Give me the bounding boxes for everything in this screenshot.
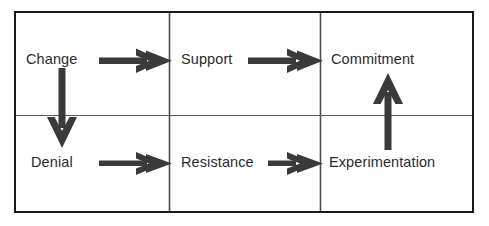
cell-label-support: Support: [181, 52, 233, 67]
cell-label-commitment: Commitment: [331, 52, 414, 67]
cell-label-denial: Denial: [31, 155, 73, 170]
diagram-canvas: Change Support Commitment Denial Resista…: [0, 0, 489, 226]
grid-outer-border: [15, 12, 473, 212]
grid-lines: [14, 11, 474, 213]
arrow-change-to-support: [99, 49, 172, 73]
arrow-change-to-denial: [47, 68, 77, 148]
arrow-support-to-commitment: [248, 49, 323, 73]
diagram-svg: [0, 0, 489, 226]
arrow-resistance-to-experimentation: [268, 152, 323, 175]
cell-label-change: Change: [26, 52, 77, 67]
arrow-denial-to-resistance: [99, 152, 172, 175]
cell-label-experimentation: Experimentation: [329, 155, 435, 170]
arrow-experimentation-to-commitment: [373, 73, 403, 150]
cell-label-resistance: Resistance: [181, 155, 254, 170]
